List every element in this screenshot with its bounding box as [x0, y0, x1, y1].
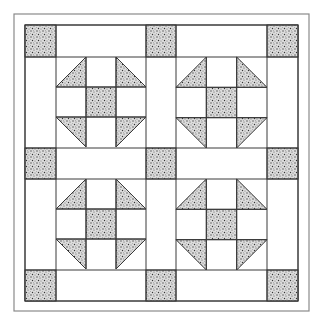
quilt-layer	[14, 14, 309, 311]
block-bottom-left-center-square	[86, 209, 116, 239]
block-bottom-right-center-square	[206, 209, 236, 239]
block-top-left-center-square	[86, 87, 116, 117]
block-top-right-center-square	[206, 87, 236, 117]
cornerstone	[267, 25, 298, 57]
cornerstone	[146, 25, 176, 57]
cornerstone	[267, 148, 298, 179]
cornerstone	[25, 148, 56, 179]
quilt-diagram	[0, 0, 322, 325]
cornerstone	[25, 270, 56, 301]
cornerstone	[25, 25, 56, 57]
cornerstone	[146, 148, 176, 179]
cornerstone	[146, 270, 176, 301]
cornerstone	[267, 270, 298, 301]
